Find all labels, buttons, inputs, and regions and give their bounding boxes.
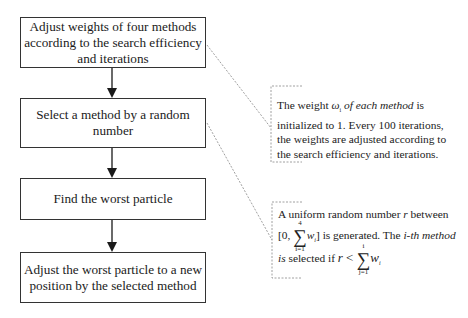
step-text-line: number (36, 123, 189, 139)
step-text-line: and iterations (24, 51, 202, 67)
flow-arrow-1 (107, 68, 117, 98)
step-find-worst: Find the worst particle (20, 178, 206, 220)
step-text-line: Adjust weights of four methods (24, 19, 202, 35)
sum-symbol: 4∑i=1 (293, 220, 307, 253)
sum-symbol: i∑j=1 (357, 243, 371, 276)
note-line: initialized to 1. Every 100 iterations, (277, 118, 467, 133)
step-adjust-weights: Adjust weights of four methods according… (20, 17, 206, 68)
callout-line-2 (207, 123, 272, 240)
step-text-line: position by the selected method (24, 278, 202, 294)
selection-note: A uniform random number r between [0, 4∑… (278, 207, 468, 276)
step-text-line: Adjust the worst particle to a new (24, 262, 202, 278)
step-select-method: Select a method by a random number (20, 98, 206, 148)
note-line: the weights are adjusted according to (277, 132, 467, 147)
weights-note: The weight ωi of each method is initiali… (277, 98, 467, 161)
flow-arrow-3 (107, 220, 117, 252)
step-text-line: Find the worst particle (53, 191, 172, 207)
step-text-line: Select a method by a random (36, 107, 189, 123)
step-adjust-worst: Adjust the worst particle to a new posit… (20, 252, 206, 303)
note-line: the search efficiency and iterations. (277, 147, 467, 162)
callout-line-1 (207, 45, 271, 128)
step-text-line: according to the search efficiency (24, 35, 202, 51)
flow-arrow-2 (107, 148, 117, 178)
note-line: The weight ωi of each method is (277, 98, 467, 118)
